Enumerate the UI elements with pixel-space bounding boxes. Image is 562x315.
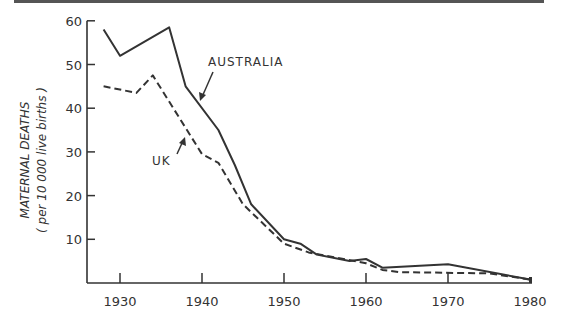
x-tick-label: 1930 [103,294,136,309]
y-tick-label: 60 [65,14,82,29]
y-axis-label: MATERNAL DEATHS [18,101,32,218]
annotation-uk: UK [152,154,171,168]
series-line-uk [104,75,530,279]
maternal-deaths-chart: 102030405060193019401950196019701980 MAT… [0,0,562,315]
x-tick-label: 1970 [431,294,464,309]
tick-labels: 102030405060193019401950196019701980 [65,14,546,309]
y-tick-label: 30 [65,145,82,160]
arrow-icon-uk [177,137,186,154]
arrow-icon-australia [199,72,213,101]
y-axis-sublabel: ( per 10 000 live births ) [35,87,49,233]
annotation-australia: AUSTRALIA [208,55,283,69]
x-tick-label: 1960 [349,294,382,309]
x-tick-label: 1980 [513,294,546,309]
axes [87,21,532,283]
y-tick-label: 40 [65,101,82,116]
y-tick-label: 50 [65,58,82,73]
x-tick-label: 1940 [185,294,218,309]
y-tick-label: 20 [65,189,82,204]
y-tick-label: 10 [65,232,82,247]
x-tick-label: 1950 [267,294,300,309]
